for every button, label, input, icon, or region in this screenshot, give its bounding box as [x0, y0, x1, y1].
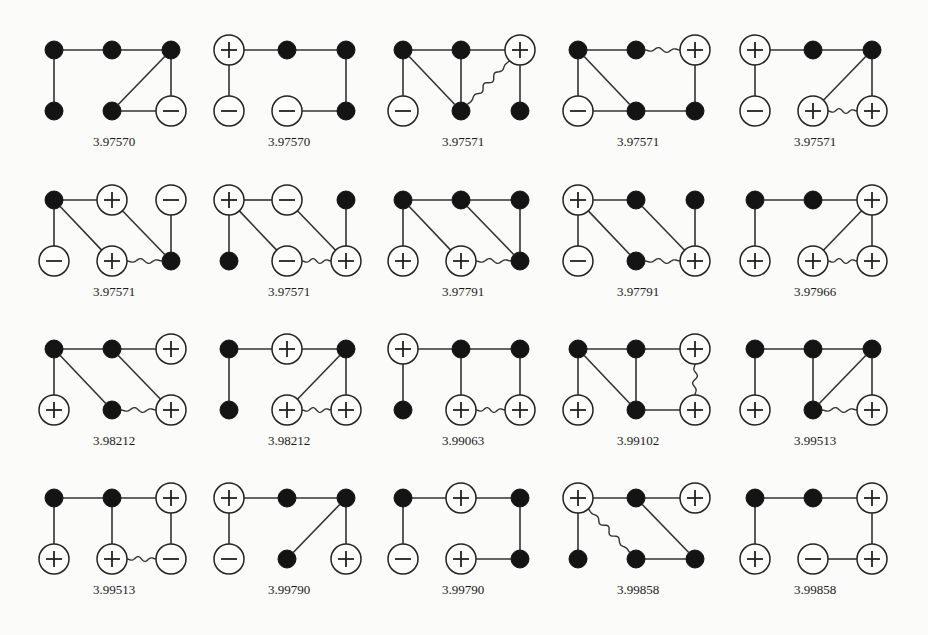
plus-node: [857, 185, 887, 215]
plus-node: [97, 544, 127, 574]
wavy-edge: [693, 364, 698, 395]
wavy-edge: [822, 408, 857, 413]
filled-node: [452, 191, 470, 209]
plus-node: [446, 483, 476, 513]
plus-node: [680, 35, 710, 65]
filled-node: [394, 489, 412, 507]
filled-node: [686, 102, 704, 120]
graph-panel: 3.97966: [740, 185, 887, 299]
minus-node: [272, 96, 302, 126]
energy-label: 3.99513: [794, 433, 836, 448]
minus-node: [214, 96, 244, 126]
energy-label: 3.99858: [617, 582, 659, 597]
filled-node: [278, 41, 296, 59]
wavy-edge: [302, 408, 331, 413]
graph-edge: [293, 504, 339, 552]
plus-node: [331, 395, 361, 425]
graph-figure: 3.975703.975703.975713.975713.975713.975…: [0, 0, 928, 635]
energy-label: 3.99790: [442, 582, 484, 597]
filled-node: [804, 41, 822, 59]
graph-panel: 3.97571: [563, 35, 710, 149]
graph-edge: [584, 356, 630, 404]
minus-node: [39, 246, 69, 276]
plus-node: [680, 395, 710, 425]
graph-edge: [118, 355, 160, 399]
plus-node: [214, 185, 244, 215]
plus-node: [857, 483, 887, 513]
energy-label: 3.99790: [268, 582, 310, 597]
filled-node: [45, 102, 63, 120]
plus-node: [214, 483, 244, 513]
minus-node: [388, 544, 418, 574]
minus-node: [740, 96, 770, 126]
filled-node: [394, 41, 412, 59]
filled-node: [278, 550, 296, 568]
filled-node: [746, 191, 764, 209]
filled-node: [627, 191, 645, 209]
wavy-edge: [121, 408, 156, 413]
plus-node: [388, 246, 418, 276]
filled-node: [569, 41, 587, 59]
graph-edge: [588, 211, 629, 255]
plus-node: [39, 395, 69, 425]
energy-label: 3.98212: [93, 433, 135, 448]
plus-node: [680, 334, 710, 364]
filled-node: [452, 340, 470, 358]
energy-label: 3.97570: [268, 134, 310, 149]
graph-edge: [642, 206, 684, 250]
filled-node: [162, 252, 180, 270]
filled-node: [511, 191, 529, 209]
graph-panel: 3.99063: [388, 334, 535, 448]
filled-node: [627, 252, 645, 270]
energy-label: 3.97571: [442, 134, 484, 149]
filled-node: [627, 102, 645, 120]
filled-node: [511, 252, 529, 270]
filled-node: [804, 401, 822, 419]
filled-node: [511, 102, 529, 120]
plus-node: [156, 395, 186, 425]
energy-label: 3.97791: [617, 284, 659, 299]
filled-node: [220, 401, 238, 419]
filled-node: [511, 550, 529, 568]
filled-node: [45, 340, 63, 358]
plus-node: [563, 395, 593, 425]
plus-node: [505, 35, 535, 65]
graph-edge: [823, 56, 865, 100]
graph-edge: [60, 207, 101, 251]
plus-node: [857, 96, 887, 126]
plus-node: [798, 246, 828, 276]
plus-node: [680, 483, 710, 513]
filled-node: [103, 41, 121, 59]
filled-node: [627, 550, 645, 568]
plus-node: [156, 483, 186, 513]
filled-node: [746, 340, 764, 358]
graph-panel: 3.98212: [220, 334, 361, 448]
filled-node: [804, 489, 822, 507]
graph-panel: 3.97791: [563, 185, 710, 299]
plus-node: [272, 395, 302, 425]
plus-node: [563, 185, 593, 215]
graph-panel: 3.99102: [563, 334, 710, 448]
filled-node: [220, 252, 238, 270]
wavy-edge: [467, 61, 509, 105]
graph-panel: 3.97570: [45, 41, 186, 149]
filled-node: [45, 191, 63, 209]
plus-node: [505, 395, 535, 425]
graph-panel: 3.99858: [740, 483, 887, 597]
filled-node: [863, 340, 881, 358]
wavy-edge: [828, 259, 857, 264]
plus-node: [740, 35, 770, 65]
minus-node: [798, 544, 828, 574]
filled-node: [220, 340, 238, 358]
filled-node: [569, 550, 587, 568]
plus-node: [331, 544, 361, 574]
energy-label: 3.99063: [442, 433, 484, 448]
energy-label: 3.97791: [442, 284, 484, 299]
plus-node: [446, 544, 476, 574]
plus-node: [97, 246, 127, 276]
filled-node: [804, 191, 822, 209]
filled-node: [804, 340, 822, 358]
filled-node: [337, 41, 355, 59]
plus-node: [156, 334, 186, 364]
minus-node: [214, 544, 244, 574]
